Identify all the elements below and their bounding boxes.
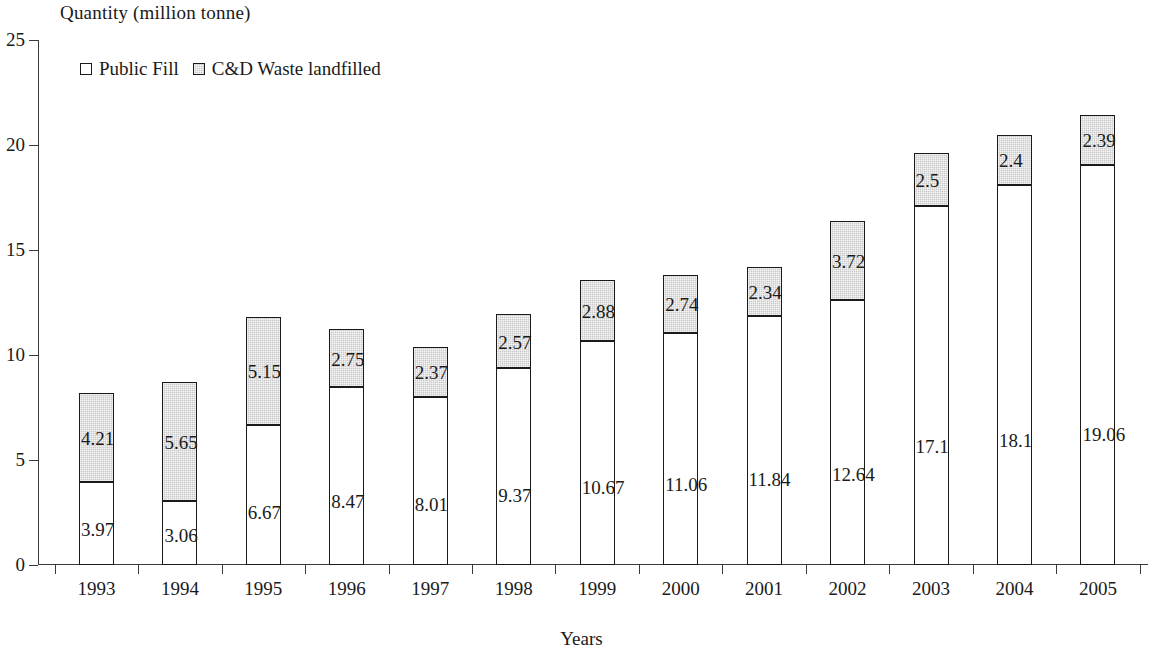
bar-group[interactable]: 11.842.34	[747, 267, 782, 565]
bar-group[interactable]: 3.974.21	[79, 393, 114, 565]
bar-value-label-public-fill: 3.97	[81, 520, 114, 539]
bar-value-label-cd-waste: 2.39	[1082, 131, 1115, 150]
bar-value-label-public-fill: 12.64	[832, 465, 875, 484]
bar-segment-cd-waste[interactable]: 2.39	[1080, 115, 1115, 165]
bar-group[interactable]: 10.672.88	[580, 280, 615, 565]
bar-segment-cd-waste[interactable]: 2.74	[663, 275, 698, 333]
bar-segment-public-fill[interactable]: 11.06	[663, 333, 698, 565]
x-axis-title: Years	[0, 628, 1163, 650]
bar-segment-cd-waste[interactable]: 2.57	[496, 314, 531, 368]
x-axis-label: 2003	[912, 578, 950, 600]
bar-value-label-cd-waste: 2.88	[582, 302, 615, 321]
y-axis-line	[38, 40, 39, 565]
y-axis-tick-label: 10	[0, 344, 25, 366]
bar-segment-public-fill[interactable]: 11.84	[747, 316, 782, 565]
bar-value-label-public-fill: 11.84	[749, 470, 791, 489]
bar-segment-public-fill[interactable]: 17.1	[914, 206, 949, 565]
x-axis-tick	[973, 565, 974, 574]
x-axis-tick	[555, 565, 556, 574]
bar-group[interactable]: 11.062.74	[663, 275, 698, 565]
bar-group[interactable]: 12.643.72	[830, 221, 865, 565]
bar-value-label-cd-waste: 3.72	[832, 252, 865, 271]
bar-group[interactable]: 9.372.57	[496, 314, 531, 565]
bar-group[interactable]: 8.012.37	[413, 347, 448, 565]
y-axis-tick-label: 0	[0, 554, 25, 576]
plot-area: 05101520253.974.213.065.656.675.158.472.…	[38, 40, 1148, 565]
x-axis-tick	[806, 565, 807, 574]
x-axis-tick	[305, 565, 306, 574]
bar-segment-public-fill[interactable]: 18.1	[997, 185, 1032, 565]
y-axis-title: Quantity (million tonne)	[60, 2, 251, 24]
bar-value-label-cd-waste: 2.75	[331, 350, 364, 369]
bar-value-label-public-fill: 8.01	[415, 495, 448, 514]
bar-value-label-cd-waste: 2.4	[999, 151, 1023, 170]
bar-segment-cd-waste[interactable]: 5.65	[162, 382, 197, 501]
x-axis-tick	[722, 565, 723, 574]
y-axis-tick	[29, 145, 38, 146]
bar-segment-cd-waste[interactable]: 2.88	[580, 280, 615, 340]
y-axis-tick	[29, 565, 38, 566]
bar-value-label-cd-waste: 2.5	[916, 171, 940, 190]
bar-value-label-cd-waste: 5.15	[248, 362, 281, 381]
x-axis-tick	[472, 565, 473, 574]
y-axis-tick	[29, 40, 38, 41]
y-axis-tick-label: 5	[0, 449, 25, 471]
bar-segment-public-fill[interactable]: 19.06	[1080, 165, 1115, 565]
bar-segment-public-fill[interactable]: 3.06	[162, 501, 197, 565]
bar-segment-public-fill[interactable]: 9.37	[496, 368, 531, 565]
bar-group[interactable]: 19.062.39	[1080, 115, 1115, 565]
x-axis-label: 1999	[578, 578, 616, 600]
bar-group[interactable]: 18.12.4	[997, 135, 1032, 566]
x-axis-tick	[222, 565, 223, 574]
x-axis-tick	[389, 565, 390, 574]
x-axis-tick	[1056, 565, 1057, 574]
x-axis-label: 1994	[161, 578, 199, 600]
bar-value-label-public-fill: 11.06	[665, 475, 707, 494]
x-axis-tick	[639, 565, 640, 574]
bar-segment-public-fill[interactable]: 10.67	[580, 341, 615, 565]
bar-value-label-cd-waste: 2.34	[749, 283, 782, 302]
bar-group[interactable]: 6.675.15	[246, 317, 281, 565]
x-axis-tick	[889, 565, 890, 574]
bar-value-label-cd-waste: 2.74	[665, 295, 698, 314]
bar-segment-cd-waste[interactable]: 2.37	[413, 347, 448, 397]
bar-group[interactable]: 17.12.5	[914, 153, 949, 565]
y-axis-tick	[29, 250, 38, 251]
y-axis-tick-label: 20	[0, 134, 25, 156]
bar-group[interactable]: 3.065.65	[162, 382, 197, 565]
bar-segment-cd-waste[interactable]: 2.75	[329, 329, 364, 387]
x-axis-label: 2000	[662, 578, 700, 600]
bar-group[interactable]: 8.472.75	[329, 329, 364, 565]
x-axis-label: 1998	[495, 578, 533, 600]
bar-value-label-cd-waste: 2.37	[415, 363, 448, 382]
bar-segment-cd-waste[interactable]: 3.72	[830, 221, 865, 299]
bar-value-label-public-fill: 3.06	[164, 526, 197, 545]
bar-segment-cd-waste[interactable]: 5.15	[246, 317, 281, 425]
bar-value-label-cd-waste: 2.57	[498, 333, 531, 352]
x-axis-label: 1996	[328, 578, 366, 600]
bar-segment-public-fill[interactable]: 8.47	[329, 387, 364, 565]
bar-value-label-public-fill: 8.47	[331, 492, 364, 511]
bar-value-label-public-fill: 18.1	[999, 431, 1032, 450]
x-axis-label: 2005	[1079, 578, 1117, 600]
bar-value-label-public-fill: 10.67	[582, 478, 625, 497]
bar-segment-cd-waste[interactable]: 2.34	[747, 267, 782, 316]
bar-segment-public-fill[interactable]: 3.97	[79, 482, 114, 565]
bar-segment-public-fill[interactable]: 8.01	[413, 397, 448, 565]
bar-segment-public-fill[interactable]: 12.64	[830, 300, 865, 565]
x-axis-label: 1997	[411, 578, 449, 600]
x-axis-label: 1995	[244, 578, 282, 600]
x-axis-tick	[1140, 565, 1141, 574]
bar-segment-cd-waste[interactable]: 4.21	[79, 393, 114, 481]
y-axis-tick	[29, 460, 38, 461]
bar-value-label-cd-waste: 5.65	[164, 433, 197, 452]
x-axis-label: 2004	[995, 578, 1033, 600]
x-axis-label: 2002	[829, 578, 867, 600]
bar-value-label-public-fill: 19.06	[1082, 425, 1125, 444]
bar-segment-public-fill[interactable]: 6.67	[246, 425, 281, 565]
bar-segment-cd-waste[interactable]: 2.5	[914, 153, 949, 206]
x-axis-label: 1993	[77, 578, 115, 600]
x-axis-label: 2001	[745, 578, 783, 600]
bar-segment-cd-waste[interactable]: 2.4	[997, 135, 1032, 185]
y-axis-tick-label: 15	[0, 239, 25, 261]
